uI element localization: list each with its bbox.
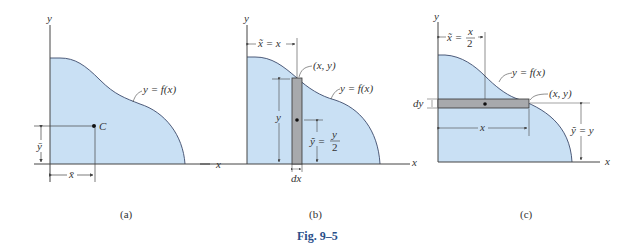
panel-c: y x x x̃ = x 2 y = f(x) (x, y) ỹ = y x [411,10,610,221]
panel-b: y x x̃ = x (x, y) y = f(x) y ỹ = y 2 dx [200,12,410,243]
panel-a-caption: (a) [120,208,133,221]
y-axis-label: y [243,12,249,24]
xtilde-label: x̃ = [446,31,462,43]
area-region [247,57,380,164]
point-label: (x, y) [313,59,336,72]
ytilde-label: ỹ = [309,135,325,147]
ytilde-numerator: y [331,128,337,140]
y-axis-label: y [46,12,52,24]
height-label: y [275,111,281,123]
area-region [438,55,572,162]
thickness-label: dy [413,97,424,109]
x-axis-label: x [604,155,610,167]
centroid-dot [92,124,96,128]
xbar-label: x̄ [68,168,74,180]
y-axis-label: y [433,10,439,22]
point-label: (x, y) [549,87,572,100]
xtilde-numerator: x [467,25,473,37]
xtilde-denominator: 2 [467,37,473,49]
strip-centroid-dot [483,102,487,106]
length-label: x [479,121,485,133]
ytilde-label: ỹ = y [570,124,594,136]
ytilde-denominator: 2 [332,141,338,153]
panel-b-x-axis-label: x [411,156,417,168]
figure-caption: Fig. 9–5 [297,229,338,243]
centroid-label: C [99,120,107,132]
panel-a: y C ȳ x̄ y = f(x) (a) [34,12,210,221]
strip-centroid-dot [295,118,299,122]
curve-label: y = f(x) [142,83,176,96]
panel-b-caption: (b) [309,208,322,221]
curve-label: y = f(x) [511,66,545,79]
x-axis-label: x [215,158,221,170]
xtilde-label: x̃ = x [257,37,281,49]
centroid-figure: y C ȳ x̄ y = f(x) (a) y x x̃ = x [0,0,634,246]
panel-c-caption: (c) [520,208,533,221]
area-region [50,58,185,164]
width-label: dx [291,172,302,184]
curve-label: y = f(x) [339,82,373,95]
